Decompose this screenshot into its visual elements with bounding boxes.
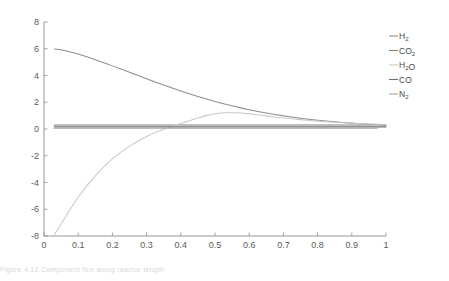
x-tick-label: 0.7 [277,240,290,250]
legend-label-co: CO [399,75,412,85]
x-tick-label: 0.1 [72,240,85,250]
x-tick-label: 0 [41,240,46,250]
y-tick-label: -2 [31,151,39,161]
x-tick-label: 0.2 [106,240,119,250]
chart-legend: H2CO2H2OCON2 [389,31,416,100]
x-tick-label: 1 [383,240,388,250]
y-tick-label: 4 [34,71,39,81]
x-tick-label: 0.4 [175,240,188,250]
y-tick-label: 0 [34,124,39,134]
x-tick-label: 0.8 [311,240,324,250]
legend-label-h2o: H2O [399,60,416,72]
y-tick-label: 8 [34,17,39,27]
legend-label-n2: N2 [399,89,409,100]
y-tick-label: -8 [31,231,39,241]
y-tick-label: 2 [34,97,39,107]
legend-label-co2: CO2 [399,46,416,57]
tick-labels-group: 00.10.20.30.40.50.60.70.80.9186420-2-4-6… [31,17,389,250]
chart-canvas: 00.10.20.30.40.50.60.70.80.9186420-2-4-6… [0,0,449,281]
series-line-h2o [54,113,386,235]
x-tick-label: 0.5 [209,240,222,250]
y-tick-label: -4 [31,178,39,188]
figure-caption: Figure 4.12 Component flux along reactor… [0,266,449,281]
axes-group [44,22,386,236]
x-tick-label: 0.9 [346,240,359,250]
legend-label-h2: H2 [399,31,409,42]
x-tick-label: 0.3 [140,240,153,250]
figure-container: 00.10.20.30.40.50.60.70.80.9186420-2-4-6… [0,0,449,281]
series-group [54,49,386,235]
y-tick-label: 6 [34,44,39,54]
y-tick-label: -6 [31,204,39,214]
x-tick-label: 0.6 [243,240,256,250]
